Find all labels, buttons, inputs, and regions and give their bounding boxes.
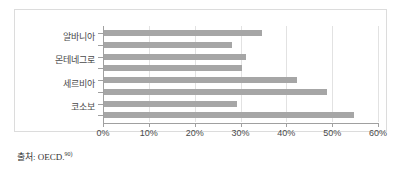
gridline [195,26,196,122]
bar [104,89,327,95]
source-note: 출처: OECD.90) [17,150,73,163]
y-axis-tick [98,92,103,93]
y-axis-tick [98,68,103,69]
y-axis-tick [98,80,103,81]
bar [104,77,297,83]
gridline [332,26,333,122]
chart-screenshot: 알바니아몬테네그로세르비아코소보 0%10%20%30%40%50%60% 출처… [0,0,403,175]
gridline [378,26,379,122]
y-axis-tick [98,45,103,46]
bar [104,101,237,107]
chart-frame: 알바니아몬테네그로세르비아코소보 0%10%20%30%40%50%60% [14,9,387,132]
y-axis-tick [98,33,103,34]
x-axis-tick-label: 60% [363,128,393,138]
x-axis-tick [149,123,150,127]
gridline [149,26,150,122]
y-axis-tick [98,57,103,58]
x-axis-tick [195,123,196,127]
source-footnote-marker: 90) [65,151,73,157]
x-axis-tick-label: 10% [134,128,164,138]
x-axis-tick [286,123,287,127]
y-axis-tick [98,115,103,116]
category-label: 세르비아 [63,79,95,89]
category-label: 코소보 [71,102,95,112]
x-axis-tick [332,123,333,127]
x-axis-tick [103,123,104,127]
x-axis-tick [378,123,379,127]
bar [104,65,242,71]
x-axis-tick [241,123,242,127]
category-label: 알바니아 [63,32,95,42]
x-axis-tick-label: 20% [180,128,210,138]
x-axis-tick-label: 50% [317,128,347,138]
x-axis-tick-label: 0% [88,128,118,138]
category-label: 몬테네그로 [55,55,95,65]
x-axis-tick-label: 40% [271,128,301,138]
gridline [286,26,287,122]
x-axis-tick-label: 30% [226,128,256,138]
bar [104,54,246,60]
gridline [241,26,242,122]
y-axis-tick [98,104,103,105]
bar [104,112,354,118]
bar [104,30,262,36]
bar [104,42,232,48]
source-text: 출처: OECD. [17,152,65,162]
